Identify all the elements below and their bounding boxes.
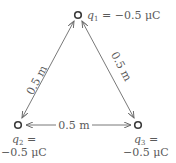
- charge-q3-label: q3 =: [134, 133, 158, 147]
- charge-triangle-diagram: q1 = −0.5 μC q2 = −0.5 μC q3 = −0.5 μC 0…: [0, 0, 176, 163]
- charge-q1-label: q1 = −0.5 μC: [87, 9, 161, 23]
- charge-q2-value: −0.5 μC: [1, 146, 47, 159]
- charge-q2-label: q2 =: [12, 133, 36, 147]
- distance-label-q1-q2: 0.5 m: [24, 63, 50, 97]
- distance-label-q1-q3: 0.5 m: [108, 49, 134, 83]
- charge-q2-icon: [15, 122, 22, 129]
- distance-label-q2-q3: 0.5 m: [58, 119, 90, 132]
- charge-q3-icon: [135, 122, 142, 129]
- charge-q3-value: −0.5 μC: [123, 146, 169, 159]
- charge-q1-icon: [75, 12, 82, 19]
